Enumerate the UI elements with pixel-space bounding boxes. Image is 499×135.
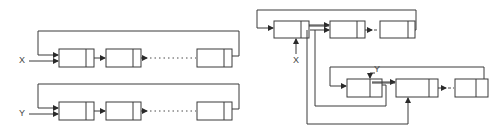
node — [455, 79, 488, 97]
list-x: X — [19, 31, 239, 67]
label-y: Y — [19, 108, 25, 118]
joined-lower-list: Y — [330, 64, 488, 97]
node — [396, 79, 438, 97]
list-y: Y — [19, 84, 239, 120]
relink-path-2 — [307, 30, 408, 124]
node — [274, 21, 309, 38]
joined-upper-list: X — [257, 10, 416, 65]
label-y-pointer: Y — [374, 64, 380, 74]
linked-list-diagram: X Y X — [0, 0, 499, 135]
node — [59, 102, 94, 120]
node — [197, 102, 232, 120]
node — [330, 21, 365, 38]
label-x: X — [19, 55, 25, 65]
node — [380, 21, 415, 38]
node — [59, 49, 94, 67]
node — [197, 49, 232, 67]
label-x-pointer: X — [293, 55, 299, 65]
node — [106, 102, 141, 120]
node — [106, 49, 141, 67]
